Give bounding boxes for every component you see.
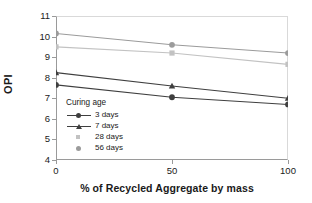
legend-title: Curing age [66,99,152,107]
opi-vs-recycled-aggregate-chart: 4567891011 050100 OPI % of Recycled Aggr… [0,0,312,203]
data-point-marker [285,102,288,108]
legend-key-marker [76,135,80,139]
legend-item-label: 56 days [95,144,123,152]
data-point-marker [56,69,59,75]
x-tick-mark [56,160,57,164]
y-axis-title: OPI [2,62,14,106]
data-point-marker [56,82,59,88]
x-axis-title: % of Recycled Aggregate by mass [42,182,292,194]
legend-key-marker [76,113,81,118]
legend-items: 3 days7 days28 days56 days [66,110,152,153]
legend-key-triangle-icon [66,121,92,131]
legend-key-marker [76,124,82,129]
x-tick-label: 0 [41,166,71,176]
data-point-marker [169,50,174,55]
legend-item: 7 days [66,121,152,131]
legend-item: 56 days [66,143,152,153]
legend-item-label: 28 days [95,133,123,141]
legend-item-label: 7 days [95,122,119,130]
x-tick-mark [172,160,173,164]
data-point-marker [56,31,59,37]
data-point-marker [285,62,288,67]
x-tick-label: 100 [273,166,303,176]
data-point-marker [169,42,175,48]
legend-key-square-icon [66,132,92,142]
x-tick-label: 50 [157,166,187,176]
legend-key-marker [76,146,81,151]
legend-item: 3 days [66,110,152,120]
legend-item-label: 3 days [95,111,119,119]
x-tick-mark [288,160,289,164]
data-point-marker [285,50,288,56]
legend: Curing age 3 days7 days28 days56 days [66,99,152,153]
data-point-marker [56,44,59,49]
legend-key-circle-icon [66,143,92,153]
legend-item: 28 days [66,132,152,142]
data-point-marker [169,94,175,100]
legend-key-circle-icon [66,110,92,120]
